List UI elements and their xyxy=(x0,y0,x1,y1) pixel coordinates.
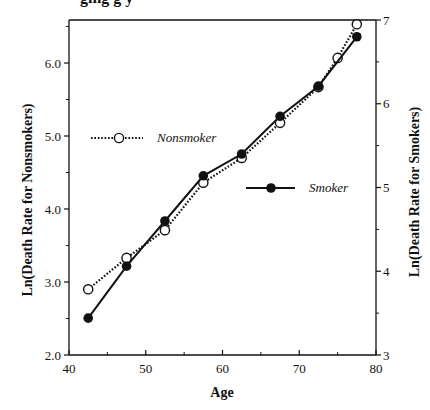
smoker-line xyxy=(88,37,357,318)
series-smoker xyxy=(83,32,361,323)
left-y-tick-label: 3.0 xyxy=(45,275,61,290)
x-tick-label: 40 xyxy=(63,361,76,376)
nonsmoker-data-point xyxy=(352,20,361,29)
open-circle-marker-icon xyxy=(114,133,123,142)
right-y-tick-label: 3 xyxy=(383,348,390,363)
legend-label-nonsmoker: Nonsmoker xyxy=(156,130,217,145)
smoker-data-point xyxy=(237,149,247,159)
smoker-data-point xyxy=(122,261,132,271)
left-y-axis-ticks: 2.03.04.05.06.0 xyxy=(45,27,69,363)
right-y-tick-label: 7 xyxy=(383,13,390,28)
filled-circle-marker-icon xyxy=(266,183,276,193)
right-y-axis-ticks: 34567 xyxy=(376,13,390,363)
x-axis-title: Age xyxy=(210,385,233,400)
smoker-data-point xyxy=(314,81,324,91)
legend-nonsmoker: Nonsmoker xyxy=(91,130,217,145)
dual-axis-line-chart: ging g y 4050607080 2.03.04.05.06.0 3456… xyxy=(0,0,430,410)
left-y-tick-label: 5.0 xyxy=(45,129,61,144)
clipped-title: ging g y xyxy=(80,0,133,7)
smoker-data-point xyxy=(352,32,362,42)
x-tick-label: 60 xyxy=(216,361,229,376)
nonsmoker-data-point xyxy=(160,226,169,235)
x-tick-label: 80 xyxy=(370,361,383,376)
smoker-data-point xyxy=(160,216,170,226)
right-y-tick-label: 5 xyxy=(383,180,390,195)
left-y-tick-label: 4.0 xyxy=(45,202,61,217)
smoker-data-point xyxy=(83,313,93,323)
title-fragment: ging g y xyxy=(80,0,133,7)
left-y-tick-label: 2.0 xyxy=(45,348,61,363)
nonsmoker-line xyxy=(88,24,357,289)
series-nonsmoker xyxy=(84,20,362,294)
left-y-axis-title: Ln(Death Rate for Nonsmokers) xyxy=(20,103,36,296)
smoker-data-point xyxy=(199,171,209,181)
right-y-tick-label: 6 xyxy=(383,96,390,111)
nonsmoker-data-point xyxy=(84,285,93,294)
x-tick-label: 50 xyxy=(139,361,152,376)
left-y-tick-label: 6.0 xyxy=(45,56,61,71)
right-y-axis-title: Ln(Death Rate for Smokers) xyxy=(407,106,423,277)
legend-smoker: Smoker xyxy=(246,180,349,195)
legend-label-smoker: Smoker xyxy=(309,180,349,195)
right-y-tick-label: 4 xyxy=(383,264,390,279)
x-axis-ticks: 4050607080 xyxy=(63,350,383,376)
smoker-data-point xyxy=(275,112,285,122)
x-tick-label: 70 xyxy=(293,361,306,376)
